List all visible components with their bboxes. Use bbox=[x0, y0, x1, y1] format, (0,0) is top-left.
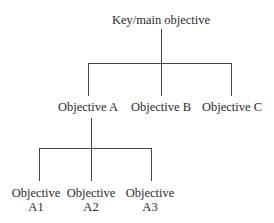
node-objective-a2: Objective A2 bbox=[67, 186, 116, 214]
node-objective-b: Objective B bbox=[131, 100, 191, 114]
connector bbox=[91, 148, 92, 181]
label-line: Objective bbox=[126, 186, 175, 200]
connector bbox=[161, 29, 162, 63]
label-line: Objective bbox=[12, 186, 61, 200]
label-line: Objective bbox=[67, 186, 116, 200]
node-objective-a3: Objective A3 bbox=[126, 186, 175, 214]
connector bbox=[151, 148, 152, 181]
label-line: A2 bbox=[67, 200, 116, 214]
root-node: Key/main objective bbox=[112, 13, 210, 27]
connector bbox=[231, 63, 232, 96]
connector bbox=[39, 148, 40, 181]
label-line: A1 bbox=[12, 200, 61, 214]
label-line: A3 bbox=[126, 200, 175, 214]
node-objective-a: Objective A bbox=[58, 100, 118, 114]
connector bbox=[161, 63, 162, 96]
connector bbox=[88, 63, 232, 64]
connector bbox=[39, 148, 152, 149]
node-objective-a1: Objective A1 bbox=[12, 186, 61, 214]
connector bbox=[91, 118, 92, 148]
connector bbox=[88, 63, 89, 96]
node-objective-c: Objective C bbox=[202, 100, 262, 114]
